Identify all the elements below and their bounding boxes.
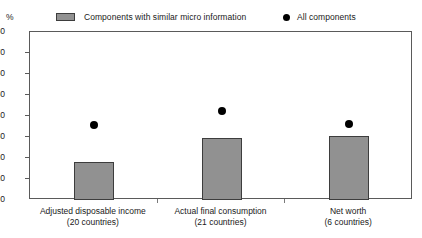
data-point-marker	[90, 121, 98, 129]
legend-item-all-components[interactable]: All components	[283, 9, 356, 25]
legend-dot-icon	[283, 14, 290, 21]
x-axis-tick-mark	[157, 199, 158, 203]
y-axis-tick-label: 80	[0, 27, 5, 36]
x-axis-category-name: Adjusted disposable income	[40, 206, 146, 216]
y-axis-tick-label: 30	[0, 132, 5, 141]
y-axis-tick-label: 10	[0, 174, 5, 183]
legend-item-components-similar-micro[interactable]: Components with similar micro informatio…	[56, 9, 246, 25]
x-axis-category-label: Net worth(6 countries)	[325, 206, 372, 228]
legend-swatch-icon	[56, 13, 75, 21]
x-axis-tick-mark	[284, 199, 285, 203]
y-axis: 01020304050607080	[0, 0, 29, 238]
data-point-marker	[218, 107, 226, 115]
x-axis-category-count: (6 countries)	[325, 217, 372, 228]
x-axis-category-label: Actual final consumption(21 countries)	[174, 206, 266, 228]
plot-inner	[30, 32, 411, 198]
y-axis-tick-label: 60	[0, 69, 5, 78]
legend-item-label: Components with similar micro informatio…	[84, 12, 246, 22]
y-axis-tick-label: 0	[0, 195, 5, 204]
plot-area	[29, 31, 412, 199]
x-axis-category-name: Actual final consumption	[174, 206, 266, 216]
y-axis-tick-label: 50	[0, 90, 5, 99]
bar	[74, 162, 114, 200]
x-axis-category-name: Net worth	[330, 206, 366, 216]
x-axis-category-label: Adjusted disposable income(20 countries)	[40, 206, 146, 228]
chart-legend: Components with similar micro informatio…	[0, 9, 422, 25]
y-axis-tick-label: 40	[0, 111, 5, 120]
x-axis-category-count: (20 countries)	[40, 217, 146, 228]
x-axis-category-count: (21 countries)	[174, 217, 266, 228]
bar	[202, 138, 242, 200]
y-axis-tick-label: 70	[0, 48, 5, 57]
y-axis-tick-label: 20	[0, 153, 5, 162]
bar	[329, 136, 369, 200]
legend-item-label: All components	[297, 12, 356, 22]
data-point-marker	[345, 120, 353, 128]
chart-container: Components with similar micro informatio…	[0, 0, 422, 238]
